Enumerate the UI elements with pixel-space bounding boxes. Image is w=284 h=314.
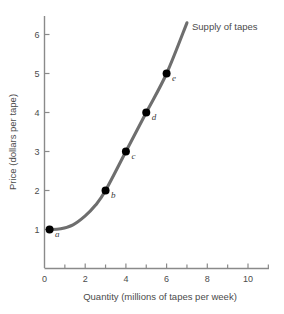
y-axis-title: Price (dollars per tape) (7, 94, 18, 190)
x-axis-title: Quantity (millions of tapes per week) (83, 291, 237, 302)
chart-plot-area: 123456 Price (dollars per tape) 0246810 … (0, 0, 284, 314)
x-tick-label-8: 8 (205, 274, 210, 284)
y-tick-label-4: 4 (34, 108, 39, 118)
y-tick-label-5: 5 (34, 69, 39, 79)
x-tick-label-6: 6 (164, 274, 169, 284)
supply-curve-series (50, 23, 187, 230)
x-axis-tick-labels: 0246810 (42, 274, 253, 284)
data-point-d (142, 109, 150, 117)
x-tick-label-10: 10 (243, 274, 253, 284)
supply-curve-line (50, 23, 187, 230)
x-tick-label-2: 2 (83, 274, 88, 284)
y-tick-label-1: 1 (34, 225, 39, 235)
x-axis: 0246810 Quantity (millions of tapes per … (42, 264, 269, 303)
data-point-label-d: d (152, 112, 157, 122)
x-tick-label-0: 0 (42, 274, 47, 284)
y-axis: 123456 Price (dollars per tape) (7, 16, 50, 268)
data-point-label-c: c (131, 151, 135, 161)
data-point-label-a: a (55, 229, 60, 239)
y-tick-label-3: 3 (34, 147, 39, 157)
x-axis-ticks (65, 264, 269, 269)
y-axis-ticks (45, 35, 50, 230)
data-point-markers (46, 70, 171, 234)
data-point-c (122, 148, 130, 156)
data-point-label-e: e (172, 73, 176, 83)
data-point-b (102, 187, 110, 195)
y-tick-label-2: 2 (34, 186, 39, 196)
data-point-label-b: b (111, 190, 116, 200)
supply-curve-chart: 123456 Price (dollars per tape) 0246810 … (0, 0, 284, 314)
data-point-a (46, 226, 54, 234)
data-point-labels: abcde (55, 73, 176, 239)
x-tick-label-4: 4 (123, 274, 128, 284)
y-axis-tick-labels: 123456 (34, 30, 39, 235)
y-tick-label-6: 6 (34, 30, 39, 40)
series-label-supply-of-tapes: Supply of tapes (192, 21, 258, 32)
data-point-e (163, 70, 171, 78)
